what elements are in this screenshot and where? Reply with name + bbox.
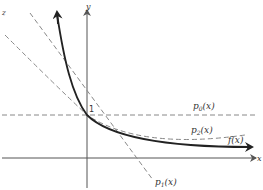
p1-label: p1(x) xyxy=(155,177,177,188)
p1-line xyxy=(30,13,153,180)
p2-label: p2(x) xyxy=(191,125,213,136)
x-axis-label: x xyxy=(257,154,262,163)
taylor-chart: y x 1 z p0(x) p2(x) f(x) p1(x) xyxy=(0,0,263,190)
f-arrow-up xyxy=(57,12,58,24)
f-curve xyxy=(57,14,250,147)
p2-curve xyxy=(5,35,245,140)
one-label: 1 xyxy=(89,105,94,114)
corner-label: z xyxy=(1,9,6,17)
f-label: f(x) xyxy=(227,135,244,145)
y-axis-label: y xyxy=(85,2,91,11)
p0-label: p0(x) xyxy=(193,101,215,112)
